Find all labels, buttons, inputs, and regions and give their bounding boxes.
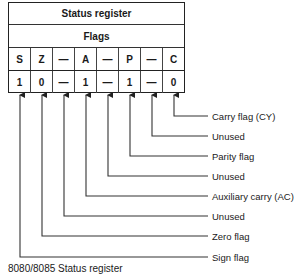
leader-lines xyxy=(0,0,308,277)
label-carry-flag: Carry flag (CY) xyxy=(212,111,275,122)
label-sign-flag: Sign flag xyxy=(212,252,249,263)
label-parity-flag: Parity flag xyxy=(212,151,254,162)
label-unused-5: Unused xyxy=(212,211,245,222)
leader-parity xyxy=(130,95,208,156)
label-unused-3: Unused xyxy=(212,171,245,182)
label-auxiliary-carry: Auxiliary carry (AC) xyxy=(212,191,294,202)
leader-aux xyxy=(86,95,208,196)
label-zero-flag: Zero flag xyxy=(212,231,250,242)
diagram-caption: 8080/8085 Status register xyxy=(8,263,123,274)
label-unused-1: Unused xyxy=(212,131,245,142)
leader-carry xyxy=(174,95,208,116)
